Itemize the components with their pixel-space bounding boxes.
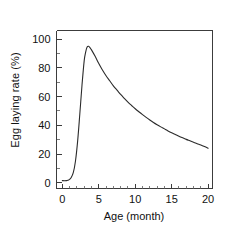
y-tick-label: 20 [38,148,50,160]
x-tick-label: 0 [59,193,65,205]
y-tick-label: 100 [32,33,50,45]
y-tick-label: 40 [38,119,50,131]
y-tick-label: 60 [38,91,50,103]
plot-area: 020406080100 05101520 [0,0,236,234]
x-tick-label: 10 [129,193,141,205]
chart-figure: Egg laying rate (%) 020406080100 0510152… [0,0,236,234]
x-tick-label: 5 [96,193,102,205]
y-tick-label: 80 [38,62,50,74]
y-tick-label: 0 [44,177,50,189]
x-tick-label: 20 [202,193,214,205]
x-tick-label: 15 [166,193,178,205]
